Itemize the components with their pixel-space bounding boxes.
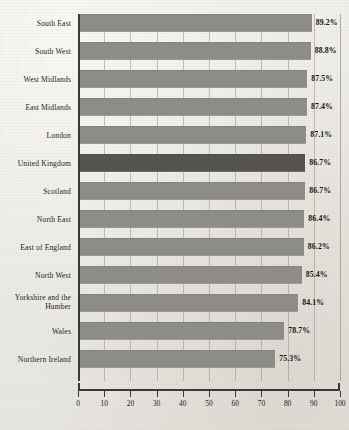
bar: [78, 70, 307, 88]
y-axis-line: [78, 14, 80, 381]
category-label: South East: [0, 19, 71, 28]
bar-row: Scotland86.7%: [78, 182, 340, 200]
value-label: 87.1%: [310, 130, 332, 139]
bar: [78, 182, 305, 200]
value-label: 86.7%: [309, 186, 331, 195]
value-label: 88.8%: [315, 46, 337, 55]
value-label: 87.5%: [311, 74, 333, 83]
bar-row: North East86.4%: [78, 210, 340, 228]
x-tick-label: 50: [205, 399, 212, 408]
x-axis-start-cap: [78, 383, 80, 391]
bar-row: South West88.8%: [78, 42, 340, 60]
x-tick-label: 30: [153, 399, 160, 408]
category-label: Scotland: [0, 187, 71, 196]
value-label: 86.2%: [308, 242, 330, 251]
bar: [78, 126, 306, 144]
bar: [78, 350, 275, 368]
horizontal-bar-chart: South East89.2%South West88.8%West Midla…: [0, 0, 349, 430]
category-label: West Midlands: [0, 75, 71, 84]
bar-row: South East89.2%: [78, 14, 340, 32]
bar-row: East Midlands87.4%: [78, 98, 340, 116]
bar: [78, 238, 304, 256]
bar-row: London87.1%: [78, 126, 340, 144]
bar-row: East of England86.2%: [78, 238, 340, 256]
x-tick-label: 70: [258, 399, 265, 408]
x-tick-0: [78, 391, 79, 397]
bar-rows: South East89.2%South West88.8%West Midla…: [78, 14, 340, 381]
x-tick-label: 60: [231, 399, 238, 408]
x-tick-90: [314, 391, 315, 397]
category-label: Wales: [0, 327, 71, 336]
x-tick-label: 100: [334, 399, 345, 408]
x-tick-50: [209, 391, 210, 397]
x-tick-label: 0: [76, 399, 80, 408]
value-label: 84.1%: [302, 298, 324, 307]
x-tick-label: 80: [284, 399, 291, 408]
value-label: 86.4%: [308, 214, 330, 223]
value-label: 87.4%: [311, 102, 333, 111]
gridline-100: [340, 14, 341, 381]
x-axis-end-cap: [338, 383, 340, 391]
bar-row: United Kingdom86.7%: [78, 154, 340, 172]
bar-row: North West85.4%: [78, 266, 340, 284]
category-label: South West: [0, 47, 71, 56]
plot-area: South East89.2%South West88.8%West Midla…: [78, 14, 340, 381]
category-label: Northern Ireland: [0, 355, 71, 364]
x-tick-20: [130, 391, 131, 397]
bar: [78, 322, 284, 340]
x-tick-80: [288, 391, 289, 397]
bar: [78, 266, 302, 284]
value-label: 78.7%: [288, 326, 310, 335]
x-tick-100: [340, 391, 341, 397]
bar: [78, 14, 312, 32]
category-label: Yorkshire and the Humber: [0, 293, 71, 311]
x-tick-40: [183, 391, 184, 397]
x-tick-60: [235, 391, 236, 397]
value-label: 75.3%: [279, 354, 301, 363]
value-label: 89.2%: [316, 18, 338, 27]
x-tick-label: 10: [100, 399, 107, 408]
bar-row: Wales78.7%: [78, 322, 340, 340]
category-label: East Midlands: [0, 103, 71, 112]
bar-row: West Midlands87.5%: [78, 70, 340, 88]
x-tick-label: 40: [179, 399, 186, 408]
bar-row: Yorkshire and the Humber84.1%: [78, 294, 340, 312]
category-label: North West: [0, 271, 71, 280]
bar: [78, 210, 304, 228]
bar: [78, 294, 298, 312]
value-label: 86.7%: [309, 158, 331, 167]
x-tick-10: [104, 391, 105, 397]
category-label: London: [0, 131, 71, 140]
bar-row: Northern Ireland75.3%: [78, 350, 340, 368]
bar-highlighted: [78, 154, 305, 172]
value-label: 85.4%: [306, 270, 328, 279]
x-tick-30: [157, 391, 158, 397]
category-label: East of England: [0, 243, 71, 252]
x-tick-70: [261, 391, 262, 397]
category-label: United Kingdom: [0, 159, 71, 168]
x-tick-label: 90: [310, 399, 317, 408]
category-label: North East: [0, 215, 71, 224]
bar: [78, 98, 307, 116]
bar: [78, 42, 311, 60]
x-tick-label: 20: [127, 399, 134, 408]
